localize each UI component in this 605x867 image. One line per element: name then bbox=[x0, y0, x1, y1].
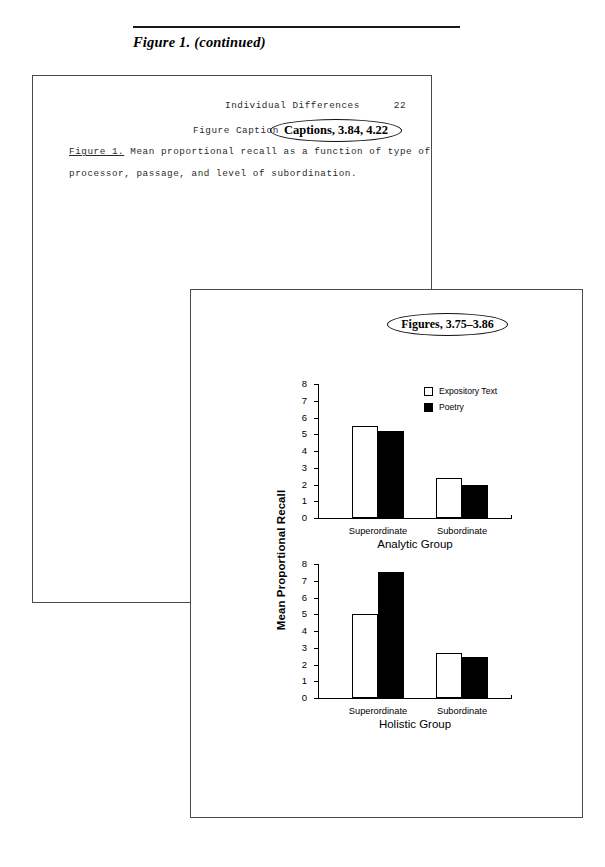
y-tick-label: 1 bbox=[302, 497, 307, 507]
y-tick-label: 4 bbox=[302, 446, 307, 456]
bar-superordinate-poetry bbox=[378, 431, 404, 518]
bar-superordinate-expository bbox=[352, 426, 378, 517]
x-axis-line bbox=[318, 698, 512, 699]
y-tick: 0 bbox=[314, 698, 318, 699]
x-axis-title-holistic: Holistic Group bbox=[318, 718, 512, 730]
legend-swatch-icon bbox=[424, 387, 433, 396]
y-tick-label: 2 bbox=[302, 480, 307, 490]
y-tick-label: 0 bbox=[302, 693, 307, 703]
legend-label: Expository Text bbox=[439, 386, 497, 396]
x-tick-label-subordinate: Subordinate bbox=[437, 526, 487, 536]
bar-subordinate-poetry bbox=[462, 485, 488, 518]
bar-subordinate-poetry bbox=[462, 657, 488, 698]
figure-charts: Mean Proportional Recall 8 7 6 5 4 3 2 1… bbox=[276, 380, 566, 740]
y-tick-label: 4 bbox=[302, 626, 307, 636]
manuscript-page-figures: Mean Proportional Recall 8 7 6 5 4 3 2 1… bbox=[190, 289, 583, 818]
y-tick-label: 5 bbox=[302, 430, 307, 440]
shared-y-axis-title: Mean Proportional Recall bbox=[272, 380, 290, 740]
caption-line-1-text: Mean proportional recall as a function o… bbox=[124, 146, 430, 157]
chart-legend: Expository Text Poetry bbox=[424, 386, 497, 418]
chart-holistic-group: 8 7 6 5 4 3 2 1 0 Superordinate Subordin… bbox=[294, 560, 566, 735]
x-axis-line bbox=[318, 518, 512, 519]
running-head-text: Individual Differences bbox=[225, 100, 360, 111]
caption-line-1: Figure 1. Mean proportional recall as a … bbox=[69, 146, 431, 157]
y-tick: 0 bbox=[314, 518, 318, 519]
y-tick-label: 8 bbox=[302, 559, 307, 569]
legend-swatch-icon bbox=[424, 403, 433, 412]
y-tick-label: 3 bbox=[302, 463, 307, 473]
x-axis-title-analytic: Analytic Group bbox=[318, 538, 512, 550]
annotation-captions: Captions, 3.84, 4.22 bbox=[270, 119, 402, 142]
bar-superordinate-poetry bbox=[378, 572, 404, 698]
bar-superordinate-expository bbox=[352, 614, 378, 698]
y-tick-label: 8 bbox=[302, 379, 307, 389]
header-divider bbox=[133, 26, 460, 28]
y-tick-label: 2 bbox=[302, 660, 307, 670]
legend-item-poetry: Poetry bbox=[424, 402, 497, 412]
running-head: Individual Differences22 bbox=[225, 100, 406, 111]
x-tick-label-subordinate: Subordinate bbox=[437, 706, 487, 716]
y-tick-label: 6 bbox=[302, 413, 307, 423]
bar-group-holistic bbox=[318, 564, 512, 698]
legend-label: Poetry bbox=[439, 402, 464, 412]
caption-heading: Figure Caption bbox=[193, 125, 279, 136]
plot-area-holistic: 8 7 6 5 4 3 2 1 0 Superordinate Subordin… bbox=[318, 564, 512, 699]
x-tick-label-superordinate: Superordinate bbox=[349, 706, 407, 716]
y-tick-label: 5 bbox=[302, 610, 307, 620]
chart-analytic-group: 8 7 6 5 4 3 2 1 0 Superordinate Subordin… bbox=[294, 380, 566, 555]
bar-subordinate-expository bbox=[436, 653, 462, 697]
y-tick-label: 1 bbox=[302, 677, 307, 687]
annotation-figures: Figures, 3.75–3.86 bbox=[387, 313, 508, 336]
running-head-page-number: 22 bbox=[360, 100, 406, 111]
bar-subordinate-expository bbox=[436, 478, 462, 518]
y-tick-label: 7 bbox=[302, 576, 307, 586]
caption-figure-label: Figure 1. bbox=[69, 146, 124, 157]
y-tick-label: 7 bbox=[302, 396, 307, 406]
y-tick-label: 6 bbox=[302, 593, 307, 603]
legend-item-expository: Expository Text bbox=[424, 386, 497, 396]
caption-line-2: processor, passage, and level of subordi… bbox=[69, 168, 357, 179]
y-tick-label: 3 bbox=[302, 643, 307, 653]
page-title: Figure 1. (continued) bbox=[133, 34, 266, 51]
y-tick-label: 0 bbox=[302, 513, 307, 523]
x-tick-label-superordinate: Superordinate bbox=[349, 526, 407, 536]
